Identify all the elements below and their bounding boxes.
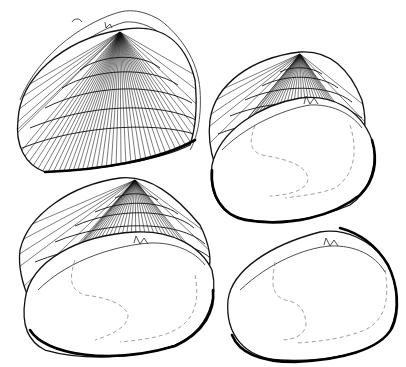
shell-4-interior xyxy=(228,228,397,362)
shell-3 xyxy=(15,178,216,357)
shell-1-exterior xyxy=(10,11,212,178)
shell-illustration xyxy=(0,0,406,367)
shell-2 xyxy=(205,52,375,223)
